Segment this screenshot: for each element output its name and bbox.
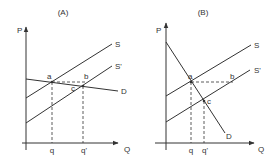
panel-b-point-c-label: c: [207, 97, 211, 106]
panel-b-tick-q: q: [189, 146, 193, 155]
panel-a-supply-prime-label: S': [115, 62, 122, 71]
panel-b-title: (B): [198, 8, 209, 17]
panel-a-supply-label: S: [115, 40, 120, 49]
panel-a-point-b-label: b: [84, 72, 89, 81]
panel-a-point-c: [82, 85, 85, 88]
panel-b-supply-curve: [166, 45, 251, 96]
panel-a-point-a-label: a: [47, 72, 52, 81]
panel-b-point-c: [203, 100, 206, 103]
supply-demand-diagram: (A) P Q S S' D a b c q q' (B) P Q: [0, 0, 270, 164]
panel-a-y-label: P: [17, 26, 22, 35]
panel-b-supply-prime-label: S': [254, 66, 261, 75]
panel-a-title: (A): [58, 8, 69, 17]
panel-a-point-c-label: c: [71, 84, 75, 93]
panel-a-supply-prime-curve: [26, 66, 112, 123]
panel-b-point-b-label: b: [230, 72, 235, 81]
panel-b-y-label: P: [156, 26, 161, 35]
panel-a: (A) P Q S S' D a b c q q': [17, 8, 130, 155]
panel-b: (B) P Q S S' D a b c q q': [155, 8, 264, 155]
panel-a-tick-q-prime: q': [81, 146, 87, 155]
panel-a-point-a: [51, 81, 54, 84]
panel-b-supply-label: S: [254, 41, 259, 50]
panel-b-point-a: [190, 81, 193, 84]
panel-b-tick-q-prime: q': [202, 146, 208, 155]
panel-a-x-label: Q: [124, 145, 130, 154]
panel-b-supply-prime-curve: [166, 70, 250, 122]
panel-a-supply-curve: [26, 44, 112, 98]
panel-a-demand-label: D: [121, 87, 127, 96]
panel-b-point-a-label: a: [188, 72, 193, 81]
panel-b-demand-label: D: [226, 132, 232, 141]
panel-a-tick-q: q: [50, 146, 54, 155]
panel-b-x-label: Q: [258, 145, 264, 154]
panel-b-demand-curve: [166, 42, 225, 133]
